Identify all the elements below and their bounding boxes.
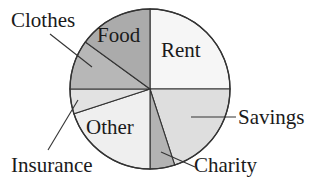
label-insurance: Insurance: [11, 153, 93, 177]
pie-slices: [70, 9, 230, 169]
label-other: Other: [86, 115, 134, 139]
pie-chart: Clothes Food Rent Savings Other Insuranc…: [0, 0, 314, 185]
label-clothes: Clothes: [11, 8, 75, 32]
label-savings: Savings: [238, 105, 305, 129]
label-charity: Charity: [194, 153, 257, 177]
label-food: Food: [97, 23, 141, 47]
leader-insurance: [48, 100, 78, 150]
label-rent: Rent: [161, 38, 201, 62]
